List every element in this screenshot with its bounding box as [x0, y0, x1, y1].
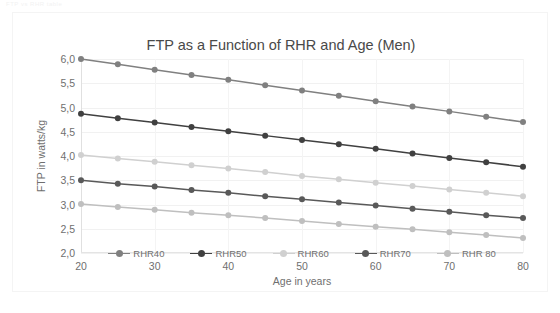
data-point-marker: [152, 120, 158, 126]
chart-series: [78, 56, 526, 125]
chart-series: [78, 201, 526, 241]
data-point-marker: [152, 184, 158, 190]
data-point-marker: [152, 159, 158, 165]
data-point-marker: [446, 186, 452, 192]
data-point-marker: [189, 210, 195, 216]
data-point-marker: [78, 201, 84, 207]
x-tick-label: 80: [517, 260, 529, 272]
data-point-marker: [78, 56, 84, 62]
data-point-marker: [410, 226, 416, 232]
data-point-marker: [336, 200, 342, 206]
legend-item[interactable]: RHR40: [108, 248, 164, 259]
legend-item[interactable]: RHR 80: [437, 248, 496, 259]
data-point-marker: [520, 215, 526, 221]
chart-title: FTP as a Function of RHR and Age (Men): [13, 37, 549, 53]
data-point-marker: [78, 177, 84, 183]
data-point-marker: [483, 212, 489, 218]
legend-label: RHR60: [298, 248, 329, 259]
data-point-marker: [299, 173, 305, 179]
x-tick-label: 50: [296, 260, 308, 272]
data-point-marker: [115, 115, 121, 121]
x-tick-label: 40: [222, 260, 234, 272]
data-point-marker: [115, 181, 121, 187]
y-tick-label: 2,0: [37, 247, 75, 259]
data-point-marker: [189, 162, 195, 168]
data-point-marker: [225, 166, 231, 172]
data-point-marker: [189, 72, 195, 78]
data-point-marker: [152, 207, 158, 213]
chart-legend: RHR40RHR50RHR60RHR70RHR 80: [81, 245, 523, 261]
data-point-marker: [336, 141, 342, 147]
y-tick-label: 3,0: [37, 199, 75, 211]
x-tick-label: 20: [75, 260, 87, 272]
data-point-marker: [225, 128, 231, 134]
data-point-marker: [483, 159, 489, 165]
data-point-marker: [115, 204, 121, 210]
data-point-marker: [262, 133, 268, 139]
data-point-marker: [189, 124, 195, 130]
y-tick-label: 4,5: [37, 126, 75, 138]
data-point-marker: [152, 67, 158, 73]
data-point-marker: [446, 209, 452, 215]
legend-item[interactable]: RHR70: [355, 248, 411, 259]
data-point-marker: [520, 119, 526, 125]
y-tick-label: 4,0: [37, 150, 75, 162]
legend-label: RHR 80: [462, 248, 496, 259]
legend-swatch-icon: [273, 249, 295, 258]
y-tick-label: 5,5: [37, 77, 75, 89]
data-point-marker: [299, 88, 305, 94]
data-point-marker: [520, 235, 526, 241]
x-axis-label: Age in years: [81, 275, 523, 287]
y-tick-label: 3,5: [37, 174, 75, 186]
data-point-marker: [78, 152, 84, 158]
series-layer: [81, 59, 523, 253]
data-point-marker: [373, 146, 379, 152]
x-tick-label: 70: [443, 260, 455, 272]
x-tick-label: 60: [370, 260, 382, 272]
legend-item[interactable]: RHR60: [273, 248, 329, 259]
data-point-marker: [446, 108, 452, 114]
legend-label: RHR70: [380, 248, 411, 259]
data-point-marker: [336, 176, 342, 182]
data-point-marker: [115, 155, 121, 161]
data-point-marker: [262, 215, 268, 221]
legend-item[interactable]: RHR50: [190, 248, 246, 259]
data-point-marker: [483, 232, 489, 238]
y-tick-label: 2,5: [37, 223, 75, 235]
data-point-marker: [410, 104, 416, 110]
data-point-marker: [446, 229, 452, 235]
legend-swatch-icon: [190, 249, 212, 258]
data-point-marker: [410, 183, 416, 189]
data-point-marker: [262, 169, 268, 175]
data-point-marker: [373, 180, 379, 186]
data-point-marker: [225, 77, 231, 83]
data-point-marker: [520, 164, 526, 170]
data-point-marker: [483, 114, 489, 120]
x-tick-label: 30: [149, 260, 161, 272]
legend-label: RHR50: [215, 248, 246, 259]
data-point-marker: [262, 82, 268, 88]
data-point-marker: [483, 190, 489, 196]
data-point-marker: [373, 98, 379, 104]
data-point-marker: [299, 218, 305, 224]
data-point-marker: [115, 61, 121, 67]
page-canvas: FTP vs RHR table FTP as a Function of RH…: [0, 0, 560, 313]
data-point-marker: [446, 155, 452, 161]
data-point-marker: [373, 224, 379, 230]
chart-series: [78, 177, 526, 221]
plot-area: 2,02,53,03,54,04,55,05,56,0 203040506070…: [81, 59, 523, 253]
data-point-marker: [299, 196, 305, 202]
data-point-marker: [336, 93, 342, 99]
data-point-marker: [410, 206, 416, 212]
legend-label: RHR40: [133, 248, 164, 259]
gridline-vertical: [523, 59, 524, 253]
legend-swatch-icon: [355, 249, 377, 258]
data-point-marker: [336, 221, 342, 227]
legend-swatch-icon: [437, 249, 459, 258]
data-point-marker: [299, 137, 305, 143]
data-point-marker: [262, 193, 268, 199]
legend-swatch-icon: [108, 249, 130, 258]
y-tick-label: 5,0: [37, 102, 75, 114]
y-tick-label: 6,0: [37, 53, 75, 65]
data-point-marker: [225, 212, 231, 218]
